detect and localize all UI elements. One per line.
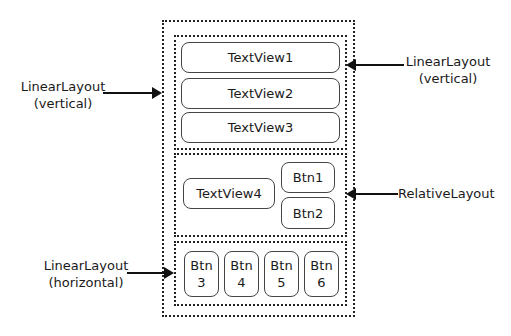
btn3-box: Btn 3 <box>184 251 219 297</box>
bottom-layout-label-line1: LinearLayout <box>40 257 132 274</box>
bottom-layout-label: LinearLayout (horizontal) <box>40 257 132 291</box>
btn4-line2: 4 <box>237 274 245 291</box>
outer-layout-label: LinearLayout (vertical) <box>18 78 108 112</box>
btn6-line1: Btn <box>310 257 332 274</box>
outer-layout-label-line1: LinearLayout <box>18 78 108 95</box>
textview4-box: TextView4 <box>183 178 275 209</box>
btn6-box: Btn 6 <box>304 251 339 297</box>
relative-layout-arrow <box>348 193 398 195</box>
bottom-layout-label-line2: (horizontal) <box>40 274 132 291</box>
btn1-box: Btn1 <box>281 162 335 193</box>
outer-layout-arrow <box>103 92 160 94</box>
textview2-box: TextView2 <box>181 78 340 109</box>
btn5-line1: Btn <box>270 257 292 274</box>
btn3-line1: Btn <box>190 257 212 274</box>
btn5-box: Btn 5 <box>264 251 299 297</box>
top-layout-label-line1: LinearLayout <box>403 53 493 70</box>
btn4-line1: Btn <box>230 257 252 274</box>
bottom-layout-arrow <box>127 272 172 274</box>
relative-layout-label: RelativeLayout <box>398 185 495 202</box>
textview3-box: TextView3 <box>181 112 340 143</box>
btn5-line2: 5 <box>277 274 285 291</box>
btn2-box: Btn2 <box>281 197 335 229</box>
btn3-line2: 3 <box>197 274 205 291</box>
relative-layout-label-line1: RelativeLayout <box>398 185 495 202</box>
top-layout-label: LinearLayout (vertical) <box>403 53 493 87</box>
btn4-box: Btn 4 <box>224 251 259 297</box>
top-layout-arrow <box>348 64 404 66</box>
btn6-line2: 6 <box>317 274 325 291</box>
top-layout-label-line2: (vertical) <box>403 70 493 87</box>
outer-layout-label-line2: (vertical) <box>18 95 108 112</box>
textview1-box: TextView1 <box>181 42 340 73</box>
